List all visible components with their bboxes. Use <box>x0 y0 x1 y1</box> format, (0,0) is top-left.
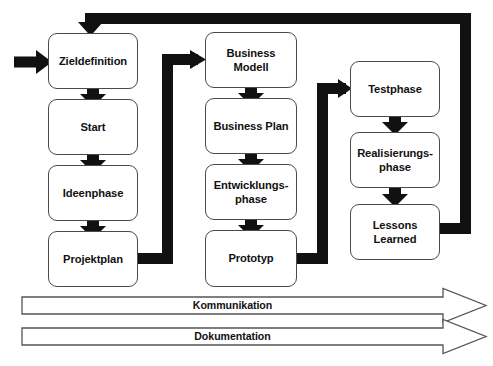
band-label-dokumentation: Dokumentation <box>22 330 443 342</box>
node-prototyp[interactable]: Prototyp <box>205 230 297 287</box>
node-business-plan-label: Business Plan <box>210 119 291 133</box>
node-start-label: Start <box>78 120 109 134</box>
node-ideenphase-label: Ideenphase <box>60 186 127 200</box>
node-zieldefinition-label: Zieldefinition <box>56 54 130 68</box>
node-projektplan[interactable]: Projektplan <box>48 231 138 287</box>
node-entwicklungsphase[interactable]: Entwicklungs- phase <box>205 164 297 220</box>
node-business-modell-label: Business Modell <box>224 46 279 75</box>
node-start[interactable]: Start <box>48 99 138 155</box>
node-lessons-learned[interactable]: Lessons Learned <box>350 204 440 260</box>
flowchart-diagram: Zieldefinition Start Ideenphase Projektp… <box>0 0 493 366</box>
entry-arrow-connector <box>14 50 52 74</box>
node-business-plan[interactable]: Business Plan <box>205 98 297 154</box>
band-label-kommunikation: Kommunikation <box>22 299 443 311</box>
node-business-modell[interactable]: Business Modell <box>205 32 297 88</box>
node-projektplan-label: Projektplan <box>60 252 126 266</box>
node-realisierungsphase-label: Realisierungs- phase <box>354 146 436 175</box>
node-lessons-learned-label: Lessons Learned <box>370 218 421 247</box>
node-entwicklungsphase-label: Entwicklungs- phase <box>211 178 292 207</box>
node-testphase-label: Testphase <box>365 82 425 96</box>
node-prototyp-label: Prototyp <box>225 251 276 265</box>
node-ideenphase[interactable]: Ideenphase <box>48 165 138 221</box>
node-testphase[interactable]: Testphase <box>350 61 440 117</box>
node-realisierungsphase[interactable]: Realisierungs- phase <box>350 132 440 188</box>
node-zieldefinition[interactable]: Zieldefinition <box>48 33 138 89</box>
